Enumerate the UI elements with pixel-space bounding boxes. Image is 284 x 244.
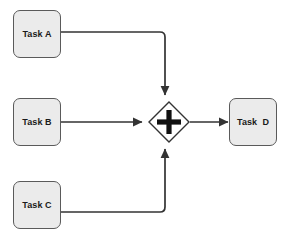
edge-task-a-to-gateway — [61, 32, 165, 95]
task-c-label: Task C — [22, 201, 51, 210]
task-node-c[interactable]: Task C — [13, 181, 61, 229]
task-node-d[interactable]: Task D — [229, 98, 277, 146]
task-b-label: Task B — [22, 118, 51, 127]
parallel-gateway-node[interactable] — [148, 101, 190, 143]
task-a-label: Task A — [22, 30, 51, 39]
task-node-b[interactable]: Task B — [13, 98, 61, 146]
edge-task-c-to-gateway — [61, 149, 165, 212]
diagram-canvas: Task A Task B Task C Task D — [0, 0, 284, 244]
task-d-label: Task D — [237, 118, 269, 127]
task-node-a[interactable]: Task A — [13, 10, 61, 58]
